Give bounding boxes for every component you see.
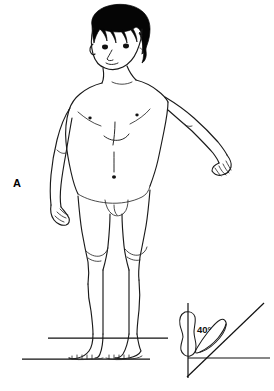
right-nipple-icon bbox=[135, 114, 138, 117]
left-nipple-icon bbox=[88, 117, 91, 120]
figure-illustration bbox=[0, 0, 274, 391]
angle-value-label: 40° bbox=[197, 325, 211, 335]
right-eye-icon bbox=[123, 44, 129, 49]
navel-icon bbox=[112, 175, 116, 179]
left-eye-icon bbox=[102, 45, 108, 50]
panel-label-a: A bbox=[13, 178, 21, 189]
clinical-figure-panel: A 40° bbox=[0, 0, 274, 391]
